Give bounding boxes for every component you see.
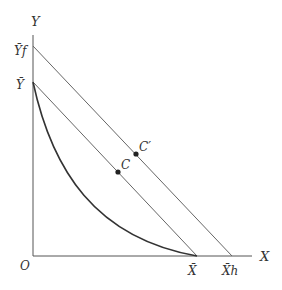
x-h-label: X̄h bbox=[221, 263, 238, 278]
x-axis-label: X bbox=[259, 249, 270, 264]
y-bar-label: Ȳ bbox=[16, 77, 25, 92]
y-f-label: Ȳf bbox=[14, 43, 29, 58]
outer-budget-line bbox=[33, 46, 232, 256]
inner-budget-line bbox=[33, 82, 197, 256]
point-c-prime bbox=[133, 151, 138, 156]
origin-label: O bbox=[20, 259, 30, 273]
point-c bbox=[115, 169, 120, 174]
point-c-prime-label: C′ bbox=[139, 140, 151, 154]
ppf-diagram: Y X O Ȳ Ȳf X̄ X̄h C C′ bbox=[0, 0, 282, 290]
point-c-label: C bbox=[121, 158, 130, 172]
x-bar-label: X̄ bbox=[187, 263, 197, 278]
y-axis-label: Y bbox=[31, 14, 41, 29]
